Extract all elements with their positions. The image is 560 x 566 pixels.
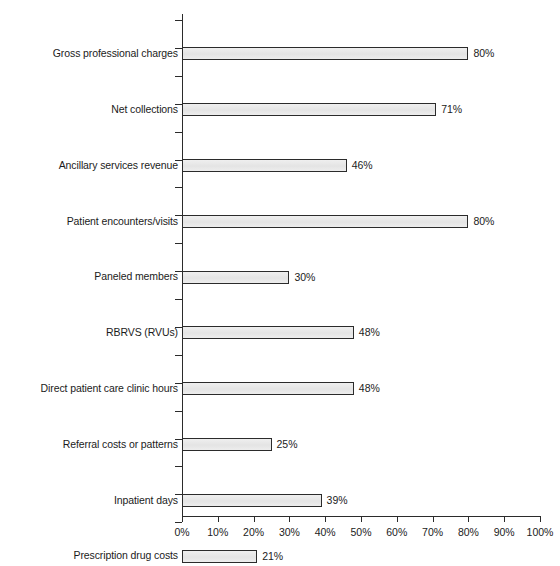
bar-row: Inpatient days39%: [0, 243, 560, 271]
bar-row: Patient satisfaction surveys66%: [0, 299, 560, 327]
bar-row: Total system results46%: [0, 383, 560, 411]
y-axis-tick: [175, 160, 182, 161]
y-axis-tick: [175, 411, 182, 412]
x-axis-tick: [504, 516, 505, 522]
bar-row: Business unit performance59%: [0, 438, 560, 466]
y-axis-tick: [175, 132, 182, 133]
bar-value-label: 21%: [262, 550, 283, 563]
y-axis-tick: [175, 355, 182, 356]
bar-row: Professional criteria34%: [0, 494, 560, 522]
x-axis-tick: [218, 516, 219, 522]
bar-row: Net collections71%: [0, 48, 560, 76]
bar-row: Direct patient care clinic hours48%: [0, 187, 560, 215]
bar-row: Patient encounters/visits80%: [0, 104, 560, 132]
y-axis-tick: [175, 215, 182, 216]
y-axis-tick: [175, 104, 182, 105]
y-axis-tick: [175, 494, 182, 495]
y-axis-tick: [175, 187, 182, 188]
y-axis-tick: [175, 48, 182, 49]
category-label: Prescription drug costs: [0, 549, 178, 561]
y-axis-tick: [175, 327, 182, 328]
bar-row: RBRVS (RVUs)48%: [0, 159, 560, 187]
bar-row: Medical management or other “Gain-Sharin…: [0, 411, 560, 439]
y-axis-tick: [175, 522, 182, 523]
y-axis-tick: [175, 76, 182, 77]
x-axis-tick: [433, 516, 434, 522]
horizontal-bar-chart: Gross professional charges80%Net collect…: [0, 0, 560, 566]
y-axis-tick: [175, 20, 182, 21]
bar-row: Ancillary services revenue46%: [0, 76, 560, 104]
x-axis-tick: [361, 516, 362, 522]
y-axis-tick: [175, 466, 182, 467]
y-axis-tick: [175, 271, 182, 272]
bar-row: Clinical outcomes34%: [0, 355, 560, 383]
y-axis-tick: [175, 383, 182, 384]
bar: [182, 550, 257, 563]
bar-row: Gross professional charges80%: [0, 20, 560, 48]
bar-row: Prescription drug costs21%: [0, 271, 560, 299]
x-axis-tick-label: 100%: [518, 526, 560, 539]
x-axis-tick: [397, 516, 398, 522]
x-axis-tick: [254, 516, 255, 522]
bar-row: Seniority29%: [0, 466, 560, 494]
y-axis-tick: [175, 299, 182, 300]
bar-row: Referral costs or patterns25%: [0, 215, 560, 243]
x-axis-tick: [182, 516, 183, 522]
bar-row: HEDIS metrics25%: [0, 327, 560, 355]
x-axis-tick: [289, 516, 290, 522]
y-axis-tick: [175, 439, 182, 440]
x-axis-tick: [325, 516, 326, 522]
y-axis-tick: [175, 243, 182, 244]
bar-row: Paneled members30%: [0, 132, 560, 160]
x-axis-tick: [540, 516, 541, 522]
x-axis-tick: [468, 516, 469, 522]
